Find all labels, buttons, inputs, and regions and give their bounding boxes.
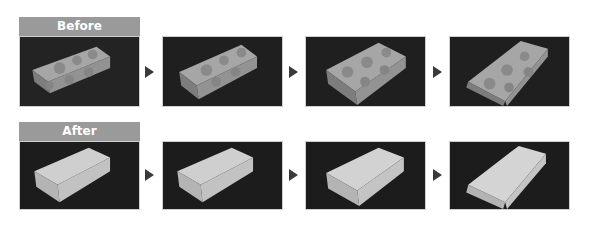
after-label: After [19,122,140,141]
before-frame-1 [19,36,140,107]
plain-box-image [20,142,139,209]
plain-box-image [450,142,569,209]
after-frame-1 [19,141,140,210]
triangle-right-icon [433,169,442,181]
after-frame-4 [449,141,570,210]
textured-box-image [450,37,569,106]
after-frame-3 [305,141,426,210]
before-label: Before [19,17,140,36]
textured-box-image [306,37,425,106]
triangle-right-icon [289,169,298,181]
before-frame-3 [305,36,426,107]
triangle-right-icon [433,66,442,78]
triangle-right-icon [145,66,154,78]
before-frame-4 [449,36,570,107]
before-frame-2 [162,36,283,107]
plain-box-image [163,142,282,209]
after-frame-2 [162,141,283,210]
plain-box-image [306,142,425,209]
triangle-right-icon [145,169,154,181]
textured-box-image [163,37,282,106]
triangle-right-icon [289,66,298,78]
textured-box-image [20,37,139,106]
